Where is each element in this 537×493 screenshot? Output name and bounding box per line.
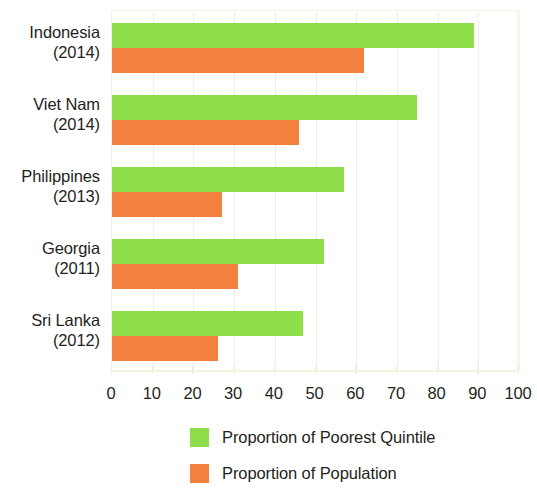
bar-population-3 [112, 264, 238, 289]
legend-swatch-green [190, 428, 209, 447]
bar-poorest-quintile-3 [112, 239, 324, 264]
bar-poorest-quintile-1 [112, 95, 417, 120]
legend-item-population: Proportion of Population [190, 464, 397, 483]
category-year-1: (2014) [0, 114, 100, 134]
bar-population-4 [112, 336, 218, 361]
category-label-3: Georgia (2011) [0, 238, 100, 278]
category-name-2: Philippines [0, 166, 100, 186]
legend-label-poorest-quintile: Proportion of Poorest Quintile [222, 428, 435, 447]
bar-poorest-quintile-4 [112, 311, 303, 336]
x-tick [477, 366, 478, 374]
bar-population-1 [112, 120, 299, 145]
gridline [478, 11, 479, 370]
category-name-0: Indonesia [0, 22, 100, 42]
category-year-4: (2012) [0, 330, 100, 350]
legend-item-poorest-quintile: Proportion of Poorest Quintile [190, 428, 435, 447]
x-tick [233, 366, 234, 374]
gridline [438, 11, 439, 370]
category-year-2: (2013) [0, 186, 100, 206]
gridline [519, 11, 520, 370]
category-label-2: Philippines (2013) [0, 166, 100, 206]
x-tick [518, 366, 519, 374]
category-name-1: Viet Nam [0, 94, 100, 114]
legend-label-population: Proportion of Population [222, 464, 397, 483]
category-name-3: Georgia [0, 238, 100, 258]
category-label-4: Sri Lanka (2012) [0, 310, 100, 350]
category-label-0: Indonesia (2014) [0, 22, 100, 62]
x-tick [274, 366, 275, 374]
x-tick [111, 366, 112, 374]
plot-area [111, 10, 518, 370]
x-tick [152, 366, 153, 374]
x-tick [355, 366, 356, 374]
bar-population-2 [112, 192, 222, 217]
x-tick [192, 366, 193, 374]
bar-population-0 [112, 48, 364, 73]
category-label-1: Viet Nam (2014) [0, 94, 100, 134]
legend-swatch-orange [190, 464, 209, 483]
category-name-4: Sri Lanka [0, 310, 100, 330]
x-tick [396, 366, 397, 374]
bar-poorest-quintile-0 [112, 23, 474, 48]
category-year-0: (2014) [0, 42, 100, 62]
x-tick [437, 366, 438, 374]
grouped-bar-chart: Indonesia (2014) Viet Nam (2014) Philipp… [0, 0, 537, 493]
gridline [397, 11, 398, 370]
bar-poorest-quintile-2 [112, 167, 344, 192]
x-tick-label: 100 [488, 384, 537, 403]
category-year-3: (2011) [0, 258, 100, 278]
x-tick [315, 366, 316, 374]
category-axis-labels: Indonesia (2014) Viet Nam (2014) Philipp… [0, 10, 106, 370]
